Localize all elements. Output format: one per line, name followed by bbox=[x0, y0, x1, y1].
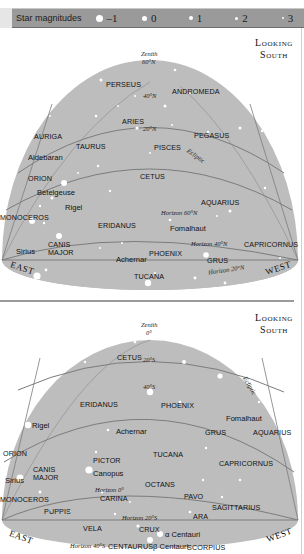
constellation-cetus: CETUS bbox=[117, 353, 142, 362]
star-sirius: Sirius bbox=[5, 476, 24, 485]
constellation-aries: ARIES bbox=[122, 117, 144, 126]
constellation-perseus: PERSEUS bbox=[106, 80, 141, 89]
star-fomalhaut: Fomalhaut bbox=[226, 414, 262, 423]
constellation-crux: CRUX bbox=[139, 525, 160, 534]
direction-heading: Looking South bbox=[244, 312, 304, 336]
zenith-label: Zenith bbox=[141, 321, 158, 328]
constellation-cetus: CETUS bbox=[140, 172, 165, 181]
legend-magnitude-3: 3 bbox=[282, 12, 304, 24]
constellation-tucana: TUCANA bbox=[153, 450, 183, 459]
latitude-20s: 20°S bbox=[143, 356, 155, 363]
constellation-pavo: PAVO bbox=[184, 492, 203, 501]
star-chart-bottom: Zenith 0° Looking South CETUS 20°S Eclip… bbox=[0, 302, 304, 554]
latitude-40s: 40°S bbox=[143, 383, 155, 390]
star-aldebaran: Aldebaran bbox=[28, 153, 63, 162]
constellation-scorpius: SCORPIUS bbox=[187, 543, 225, 552]
constellation-orion: ORION bbox=[28, 174, 52, 183]
constellation-auriga: AURIGA bbox=[34, 132, 62, 141]
constellation-taurus: TAURUS bbox=[76, 142, 106, 151]
horizon-60n: Horizon 60°N bbox=[161, 209, 197, 216]
constellation-vela: VELA bbox=[83, 524, 102, 533]
constellation-sagittarius: SAGITTARIUS bbox=[212, 503, 261, 512]
constellation-monoceros: MONOCEROS bbox=[0, 213, 49, 222]
constellation-pictor: PICTOR bbox=[93, 456, 121, 465]
star-dot-icon bbox=[235, 17, 238, 20]
star-sirius: Sirius bbox=[16, 247, 35, 256]
constellation-aquarius: AQUARIUS bbox=[253, 428, 291, 437]
constellation-pegasus: PEGASUS bbox=[194, 131, 229, 140]
legend-magnitude-2: 2 bbox=[235, 12, 268, 24]
legend-magnitude-0: 0 bbox=[142, 12, 175, 24]
star-betelgeuse: Betelgeuse bbox=[37, 188, 75, 197]
legend-magnitude-1: 1 bbox=[189, 12, 222, 24]
star-magnitude-legend: Star magnitudes –1 0 1 2 3 bbox=[12, 8, 304, 28]
star-dot-icon bbox=[189, 16, 193, 20]
star-achernar: Achernar bbox=[116, 427, 147, 436]
constellation-tucana: TUCANA bbox=[134, 272, 164, 281]
star-rigel: Rigel bbox=[65, 203, 82, 212]
star-fomalhaut: Fomalhaut bbox=[170, 224, 206, 233]
constellation-pisces: PISCES bbox=[154, 143, 181, 152]
star-dot-icon bbox=[142, 16, 147, 21]
star-dot-icon bbox=[282, 17, 284, 19]
legend-magnitude-minus1: –1 bbox=[96, 12, 129, 24]
zenith-latitude: 0° bbox=[146, 329, 152, 336]
constellation-phoenix: PHOENIX bbox=[149, 249, 182, 258]
constellation-grus: GRUS bbox=[207, 256, 228, 265]
constellation-octans: OCTANS bbox=[145, 480, 175, 489]
horizon-40s: Horizon 40°S bbox=[70, 542, 105, 549]
constellation-grus: GRUS bbox=[205, 428, 226, 437]
horizon-20s: Horizon 20°S bbox=[122, 514, 157, 521]
constellation-canis-major: CANIS MAJOR bbox=[48, 241, 74, 257]
constellation-aquarius: AQUARIUS bbox=[201, 198, 239, 207]
horizon-40n: Horizon 40°N bbox=[191, 240, 227, 247]
star-chart-top: Zenith 60°N Looking South PERSEUS ANDROM… bbox=[0, 28, 304, 298]
latitude-40n: 40°N bbox=[143, 92, 156, 99]
horizon-0: Horizon 0° bbox=[95, 486, 124, 493]
constellation-ara: ARA bbox=[193, 512, 208, 521]
constellation-eridanus: ERIDANUS bbox=[98, 221, 136, 230]
direction-heading: Looking South bbox=[244, 37, 304, 61]
star-beta-centauri: β Centauri bbox=[153, 542, 188, 551]
constellation-capricornus: CAPRICORNUS bbox=[244, 240, 298, 249]
constellation-phoenix: PHOENIX bbox=[161, 401, 194, 410]
constellation-centaurus: CENTAURUS bbox=[108, 542, 153, 551]
star-achernar: Achernar bbox=[116, 255, 147, 264]
zenith-latitude: 60°N bbox=[142, 58, 155, 65]
legend-left-edge bbox=[0, 8, 12, 28]
star-canopus: Canopus bbox=[93, 469, 123, 478]
star-rigel: Rigel bbox=[32, 421, 49, 430]
constellation-puppis: PUPPIS bbox=[44, 507, 71, 516]
constellation-andromeda: ANDROMEDA bbox=[172, 87, 220, 96]
constellation-monoceros: MONOCEROS bbox=[0, 495, 49, 504]
constellation-canis-major: CANIS MAJOR bbox=[33, 466, 59, 482]
constellation-carina: CARINA bbox=[100, 494, 128, 503]
legend-title: Star magnitudes bbox=[16, 13, 82, 23]
constellation-eridanus: ERIDANUS bbox=[80, 400, 118, 409]
latitude-20n: 20°N bbox=[143, 125, 156, 132]
star-alpha-centauri: α Centauri bbox=[165, 530, 200, 539]
zenith-label: Zenith bbox=[141, 50, 158, 57]
star-dot-icon bbox=[96, 15, 103, 22]
constellation-capricornus: CAPRICORNUS bbox=[219, 459, 273, 468]
constellation-orion: ORION bbox=[3, 449, 27, 458]
